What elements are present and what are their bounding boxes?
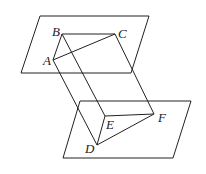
edge-ac [53,34,115,60]
edge-de [97,116,105,145]
lower-plane [63,101,191,158]
label-b: B [52,24,60,39]
label-c: C [118,26,127,41]
label-a: A [42,53,51,68]
label-d: D [84,141,95,156]
label-e: E [105,117,114,132]
prism-diagram: B C A E F D [0,0,206,174]
edge-ef [105,114,154,116]
edge-cf [115,34,154,114]
label-f: F [157,110,167,125]
edge-be [62,34,105,116]
